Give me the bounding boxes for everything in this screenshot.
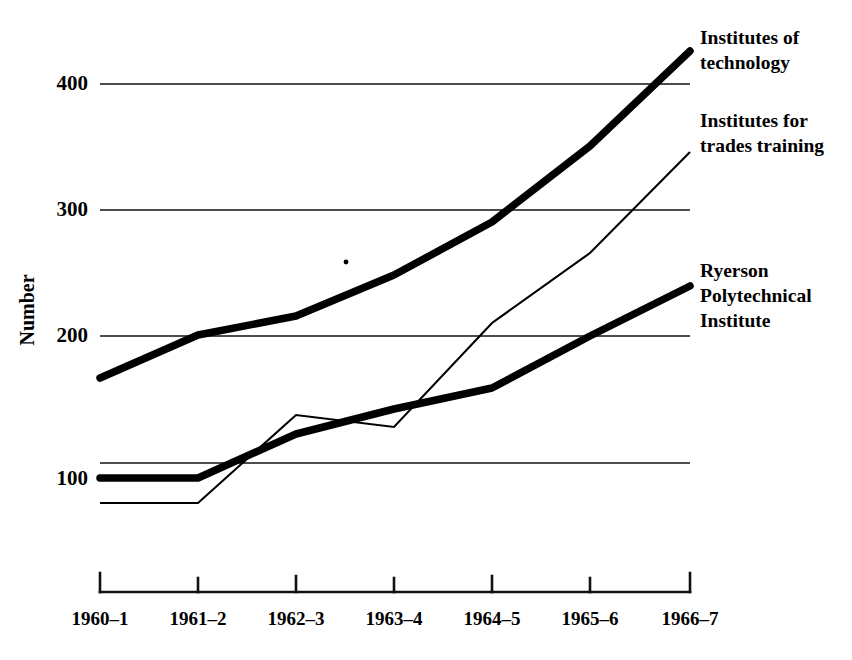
- y-tick-label-400: 400: [57, 71, 89, 95]
- legend-label-trades-line1: Institutes for: [700, 110, 808, 131]
- x-tick-label-1960-1: 1960–1: [72, 608, 129, 629]
- x-tick-label-1961-2: 1961–2: [170, 608, 227, 629]
- legend-institutes-for-trades-training: Institutes for trades training: [700, 110, 824, 156]
- x-tick-label-1966-7: 1966–7: [662, 608, 720, 629]
- legend-label-ryerson-line1: Ryerson: [700, 260, 769, 281]
- y-axis-title: Number: [16, 274, 38, 345]
- legend-label-trades-line2: trades training: [700, 135, 824, 156]
- x-tick-label-1962-3: 1962–3: [268, 608, 325, 629]
- legend-label-ryerson-line2: Polytechnical: [700, 285, 812, 306]
- series-ryerson-polytechnical-institute: [100, 286, 690, 478]
- y-axis-labels: 400 300 200 100: [57, 71, 89, 490]
- print-speck: [344, 260, 349, 265]
- x-axis-labels: 1960–1 1961–2 1962–3 1963–4 1964–5 1965–…: [72, 608, 720, 629]
- chart-page: 400 300 200 100 Number 1960–1: [0, 0, 852, 660]
- x-tick-label-1965-6: 1965–6: [562, 608, 619, 629]
- x-tick-label-1964-5: 1964–5: [464, 608, 521, 629]
- x-tick-label-1963-4: 1963–4: [366, 608, 424, 629]
- y-tick-label-100: 100: [57, 466, 89, 490]
- y-tick-label-300: 300: [57, 197, 89, 221]
- line-chart: 400 300 200 100 Number 1960–1: [0, 0, 852, 660]
- legend-institutes-of-technology: Institutes of technology: [700, 27, 800, 73]
- legend-ryerson-polytechnical-institute: Ryerson Polytechnical Institute: [700, 260, 812, 331]
- legend-label-ryerson-line3: Institute: [700, 310, 771, 331]
- y-tick-label-200: 200: [57, 323, 89, 347]
- legend-label-technology-line1: Institutes of: [700, 27, 800, 48]
- legend-label-technology-line2: technology: [700, 52, 790, 73]
- x-axis: [100, 573, 690, 592]
